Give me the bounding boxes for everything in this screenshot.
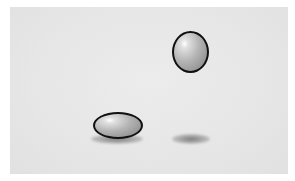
squashed-ball <box>93 112 143 139</box>
airborne-ball-shadow <box>172 134 210 144</box>
scene-panel: Two gray glossy balls: one airborne and … <box>10 7 288 174</box>
airborne-ball <box>172 31 209 73</box>
